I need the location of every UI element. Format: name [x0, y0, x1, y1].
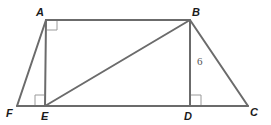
length-bd: 6: [197, 55, 203, 67]
trapezoid-diagram: A B C D E F 6: [0, 0, 271, 125]
right-angle-d-icon: [191, 95, 201, 105]
label-d: D: [184, 110, 192, 122]
label-f: F: [6, 107, 13, 119]
label-e: E: [41, 110, 49, 122]
segment-ae: [45, 20, 46, 106]
label-b: B: [192, 6, 200, 18]
right-angle-e-icon: [35, 95, 44, 105]
right-angle-a-icon: [47, 21, 57, 30]
label-c: C: [250, 106, 259, 118]
label-a: A: [35, 6, 44, 18]
segment-be: [45, 20, 190, 106]
segment-af: [17, 20, 46, 106]
